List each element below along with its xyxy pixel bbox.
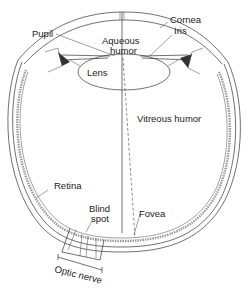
label-pupil: Pupil	[32, 28, 53, 39]
retina-layer	[17, 70, 230, 241]
label-cornea: Cornea	[170, 14, 202, 25]
label-retina: Retina	[54, 180, 82, 191]
label-fovea: Fovea	[139, 208, 166, 219]
label-optic-nerve: Optic nerve	[54, 263, 104, 285]
cornea-leader	[160, 22, 168, 28]
retina-leader	[36, 190, 48, 198]
visual-axis	[123, 58, 135, 238]
sclera	[8, 60, 241, 252]
label-humor: humor	[110, 45, 137, 56]
label-vitreous: Vitreous humor	[137, 113, 201, 124]
iris-leader	[150, 35, 172, 56]
eye-cross-section: Pupil Cornea Iris Aqueous humor Lens Vit…	[0, 0, 249, 294]
label-lens: Lens	[87, 67, 108, 78]
label-iris: Iris	[174, 25, 187, 36]
label-spot: spot	[91, 213, 109, 224]
eye-diagram: Pupil Cornea Iris Aqueous humor Lens Vit…	[0, 0, 249, 294]
